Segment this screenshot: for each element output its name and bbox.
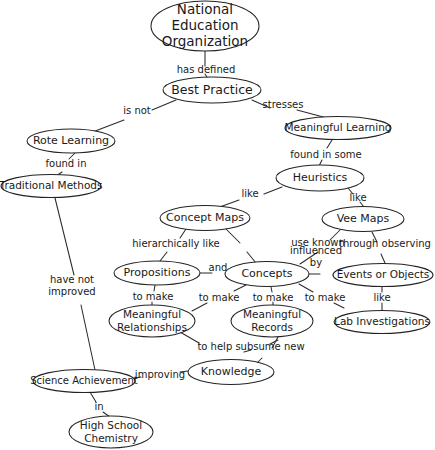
edge-label: to make: [253, 292, 294, 303]
concept-map-svg: has definedis notstressesfound infound i…: [0, 0, 435, 450]
edge-science-achievement-to-high-school-chemistry: in: [90, 392, 110, 417]
node-meaningful-learning[interactable]: Meaningful Learning: [284, 117, 391, 140]
edge-label: like: [349, 192, 366, 203]
edge-vee-maps-to-events-or-objects: through observing: [339, 232, 431, 263]
edge-label: influencedby: [290, 245, 342, 268]
node-heuristics[interactable]: Heuristics: [276, 165, 364, 191]
edge-heuristics-to-concept-maps: like: [217, 187, 282, 208]
node-vee-maps[interactable]: Vee Maps: [322, 207, 404, 232]
edge-best-practice-to-meaningful-learning: stresses: [252, 99, 327, 118]
edge-label: to help subsume new: [197, 341, 304, 352]
edge-label: has defined: [177, 64, 236, 75]
node-label: Traditional Methods: [0, 179, 102, 191]
edge-neo-to-best-practice: has defined: [177, 51, 236, 77]
edge-concepts-to-meaningful-relationships: to make: [192, 285, 246, 311]
edge-label: is not: [123, 105, 151, 116]
edge-label: found in some: [290, 149, 361, 160]
node-label: Rote Learning: [33, 134, 109, 147]
node-label: Knowledge: [201, 365, 262, 378]
edge-label: stresses: [263, 99, 304, 110]
edge-events-or-objects-to-lab-investigations: like: [373, 287, 390, 310]
edge-label: to make: [199, 292, 240, 303]
node-meaningful-records[interactable]: MeaningfulRecords: [231, 305, 313, 337]
concept-map-canvas: has definedis notstressesfound infound i…: [0, 0, 435, 450]
node-concept-maps[interactable]: Concept Maps: [160, 206, 250, 231]
node-events-or-objects[interactable]: Events or Objects: [333, 264, 433, 287]
edge-label: found in: [46, 158, 87, 169]
edge-heuristics-to-vee-maps: like: [348, 188, 367, 207]
edge-rote-learning-to-traditional-methods: found in: [46, 153, 87, 176]
edge-label: in: [94, 401, 103, 412]
edge-label: hierarchically like: [132, 238, 219, 249]
node-concepts[interactable]: Concepts: [225, 262, 309, 287]
node-high-school-chemistry[interactable]: High SchoolChemistry: [69, 416, 153, 448]
node-label: Concept Maps: [166, 211, 244, 224]
edge-label: like: [373, 292, 390, 303]
edge-label: improving: [135, 369, 185, 380]
node-rote-learning[interactable]: Rote Learning: [27, 129, 115, 153]
node-best-practice[interactable]: Best Practice: [163, 77, 261, 103]
edge-concept-maps-to-propositions: hierarchically like: [132, 229, 219, 261]
node-national-education-organization[interactable]: NationalEducationOrganization: [151, 1, 259, 51]
edge-best-practice-to-rote-learning: is not: [90, 100, 176, 133]
node-label: Events or Objects: [337, 268, 430, 280]
node-propositions[interactable]: Propositions: [114, 261, 200, 285]
edge-label: have notimproved: [48, 274, 95, 297]
node-traditional-methods[interactable]: Traditional Methods: [0, 175, 102, 198]
edge-meaningful-learning-to-heuristics: found in some: [290, 140, 361, 166]
edge-science-achievement-to-knowledge: improving: [134, 369, 188, 380]
node-label: Concepts: [241, 267, 292, 280]
node-label: Best Practice: [171, 82, 253, 97]
edge-label: to make: [305, 292, 346, 303]
node-label: MeaningfulRecords: [243, 308, 301, 333]
node-label: Meaningful Learning: [284, 121, 391, 133]
node-science-achievement[interactable]: Science Achievement: [30, 370, 138, 393]
edge-concepts-to-meaningful-records: to make: [253, 287, 294, 305]
node-label: Propositions: [124, 266, 191, 279]
node-label: Vee Maps: [337, 212, 390, 225]
edge-concepts-to-lab-investigations-via-make: to make: [299, 284, 345, 308]
node-label: Science Achievement: [30, 375, 138, 386]
node-label: High SchoolChemistry: [80, 419, 142, 444]
edge-label: through observing: [339, 238, 431, 249]
node-label: MeaningfulRelationships: [117, 308, 187, 333]
node-knowledge[interactable]: Knowledge: [188, 360, 274, 385]
edge-label: and: [209, 262, 228, 273]
edge-label: like: [241, 188, 258, 199]
edge-label: to make: [133, 291, 174, 302]
node-meaningful-relationships[interactable]: MeaningfulRelationships: [109, 305, 195, 337]
edge-traditional-methods-to-science-achievement: have notimproved: [48, 198, 95, 370]
node-label: Lab Investigations: [334, 315, 430, 327]
edge-concept-maps-to-concepts: [226, 229, 256, 263]
node-lab-investigations[interactable]: Lab Investigations: [334, 311, 430, 334]
edge-propositions-to-meaningful-relationships: to make: [133, 285, 174, 305]
node-label: Heuristics: [293, 171, 348, 184]
edge-line: [226, 229, 256, 263]
